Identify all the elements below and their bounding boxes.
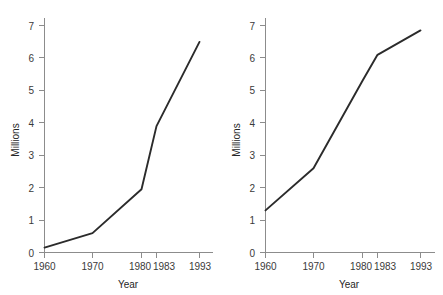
- left-ytick-label-0: 0: [28, 248, 34, 259]
- right-ytick-label-0: 0: [249, 248, 255, 259]
- right-ytick-label-1: 1: [249, 215, 255, 226]
- chart-panel-left: 7 6 5 4 3 2 1 0 1960 1970 1980 1983 1993…: [0, 0, 221, 295]
- right-xtick-label-1993: 1993: [410, 261, 433, 272]
- left-data-line: [45, 42, 200, 248]
- left-xtick-label-1980: 1980: [129, 261, 152, 272]
- right-data-line: [266, 30, 421, 210]
- left-ytick-label-6: 6: [28, 53, 34, 64]
- left-x-axis-title: Year: [118, 279, 139, 290]
- left-ytick-label-4: 4: [28, 118, 34, 129]
- right-xtick-label-1980: 1980: [350, 261, 373, 272]
- left-ytick-label-7: 7: [28, 21, 34, 32]
- left-xtick-label-1993: 1993: [189, 261, 212, 272]
- right-ytick-label-7: 7: [249, 21, 255, 32]
- right-xtick-label-1960: 1960: [254, 261, 277, 272]
- left-y-axis-title: Millions: [10, 123, 21, 156]
- left-ytick-label-3: 3: [28, 150, 34, 161]
- right-chart-svg: 7 6 5 4 3 2 1 0 1960 1970 1980 1983 1993…: [221, 0, 443, 295]
- right-ytick-label-5: 5: [249, 85, 255, 96]
- right-xtick-label-1970: 1970: [302, 261, 325, 272]
- chart-panel-right: 7 6 5 4 3 2 1 0 1960 1970 1980 1983 1993…: [221, 0, 442, 295]
- right-ytick-label-4: 4: [249, 118, 255, 129]
- right-ytick-label-2: 2: [249, 183, 255, 194]
- right-ytick-label-3: 3: [249, 150, 255, 161]
- left-xtick-label-1983: 1983: [153, 261, 176, 272]
- right-xtick-label-1983: 1983: [374, 261, 397, 272]
- right-y-axis-title: Millions: [231, 123, 242, 156]
- left-ytick-label-1: 1: [28, 215, 34, 226]
- left-ytick-label-2: 2: [28, 183, 34, 194]
- two-panel-line-chart-figure: 7 6 5 4 3 2 1 0 1960 1970 1980 1983 1993…: [0, 0, 443, 295]
- left-ytick-label-5: 5: [28, 85, 34, 96]
- left-xtick-label-1960: 1960: [33, 261, 56, 272]
- left-xtick-label-1970: 1970: [81, 261, 104, 272]
- right-x-axis-title: Year: [339, 279, 360, 290]
- left-chart-svg: 7 6 5 4 3 2 1 0 1960 1970 1980 1983 1993…: [0, 0, 221, 295]
- right-ytick-label-6: 6: [249, 53, 255, 64]
